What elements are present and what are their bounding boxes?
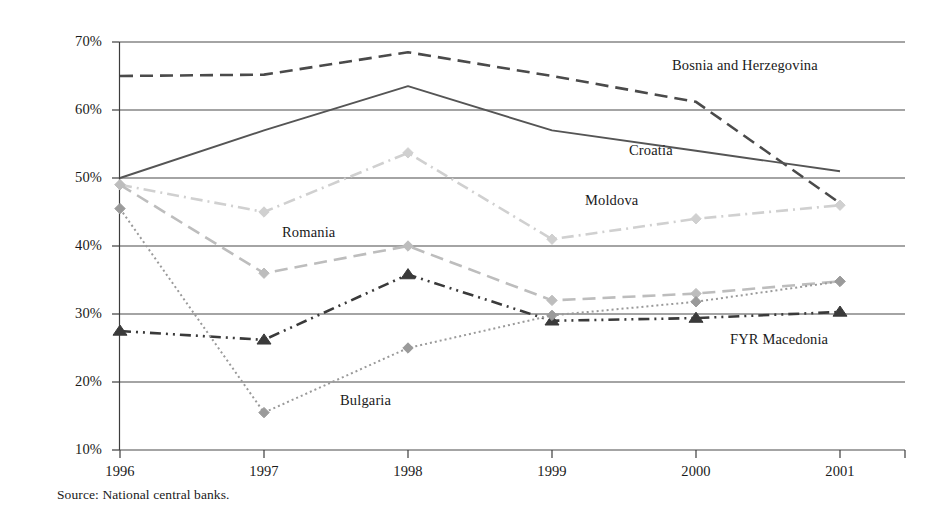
series-label-moldova: Moldova [585,192,638,209]
series-label-bulgaria: Bulgaria [340,392,391,409]
series-bulgaria [115,203,845,417]
plot-area [0,0,933,523]
series-label-bosnia-and-herzegovina: Bosnia and Herzegovina [672,57,818,74]
x-axis-tick-2000: 2000 [661,463,731,480]
gridlines [120,42,906,450]
x-axis-tick-1996: 1996 [85,463,155,480]
chart-svg [0,0,933,523]
series-label-fyr-macedonia: FYR Macedonia [730,331,828,348]
y-axis-tick-40: 40% [50,237,102,254]
series-label-romania: Romania [282,224,335,241]
y-axis-tick-70: 70% [50,33,102,50]
x-axis-tick-1998: 1998 [373,463,443,480]
y-axis-tick-20: 20% [50,373,102,390]
x-axis-tick-2001: 2001 [805,463,875,480]
axes [112,42,905,458]
series-croatia [120,86,840,178]
y-axis-tick-50: 50% [50,169,102,186]
x-axis-tick-1997: 1997 [229,463,299,480]
series-moldova [115,148,845,245]
chart-container: 70%60%50%40%30%20%10% 199619971998199920… [0,0,933,523]
y-axis-tick-60: 60% [50,101,102,118]
y-axis-tick-10: 10% [50,441,102,458]
series-romania [115,180,845,306]
series-bosnia-and-herzegovina [120,52,840,203]
series-label-croatia: Croatia [629,142,673,159]
y-axis-tick-30: 30% [50,305,102,322]
x-axis-tick-1999: 1999 [517,463,587,480]
source-note: Source: National central banks. [57,487,230,503]
